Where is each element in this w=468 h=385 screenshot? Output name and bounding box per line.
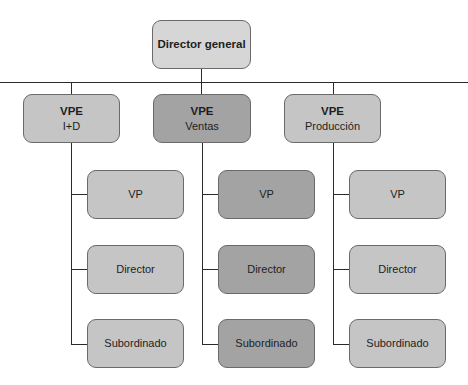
child-node-vp: VP [349, 170, 446, 219]
vpe-title: VPE [190, 104, 213, 119]
column-spine-1 [71, 143, 72, 344]
column-spine-3 [333, 143, 334, 344]
child-node-subordinado: Subordinado [87, 319, 184, 368]
child-label: VP [390, 187, 405, 202]
root-node-label: Director general [157, 37, 245, 52]
stub-2-vp [202, 194, 218, 195]
branch-drop-2 [201, 82, 202, 94]
child-node-vp: VP [87, 170, 184, 219]
child-node-vp: VP [218, 170, 315, 219]
child-label: Director [378, 262, 417, 277]
stub-1-subordinado [71, 344, 87, 345]
root-connector [201, 69, 202, 82]
vpe-subtitle: I+D [63, 119, 80, 134]
vpe-subtitle: Ventas [185, 119, 219, 134]
stub-3-subordinado [333, 344, 349, 345]
child-label: Subordinado [366, 336, 428, 351]
stub-2-director [202, 269, 218, 270]
child-label: VP [128, 187, 143, 202]
vpe-title: VPE [321, 104, 344, 119]
child-node-subordinado: Subordinado [349, 319, 446, 368]
stub-1-director [71, 269, 87, 270]
child-label: Subordinado [104, 336, 166, 351]
root-node-director-general: Director general [152, 20, 251, 69]
vpe-subtitle: Producción [305, 119, 360, 134]
vpe-title: VPE [60, 104, 83, 119]
child-node-subordinado: Subordinado [218, 319, 315, 368]
stub-3-director [333, 269, 349, 270]
vpe-node-ventas: VPE Ventas [153, 94, 251, 143]
child-label: Director [247, 262, 286, 277]
child-label: Director [116, 262, 155, 277]
child-label: VP [259, 187, 274, 202]
vpe-node-produccion: VPE Producción [284, 94, 381, 143]
branch-drop-1 [71, 82, 72, 94]
child-node-director: Director [218, 245, 315, 294]
stub-1-vp [71, 194, 87, 195]
stub-2-subordinado [202, 344, 218, 345]
column-spine-2 [202, 143, 203, 344]
branch-drop-3 [333, 82, 334, 94]
child-node-director: Director [87, 245, 184, 294]
child-node-director: Director [349, 245, 446, 294]
child-label: Subordinado [235, 336, 297, 351]
stub-3-vp [333, 194, 349, 195]
vpe-node-id: VPE I+D [23, 94, 120, 143]
